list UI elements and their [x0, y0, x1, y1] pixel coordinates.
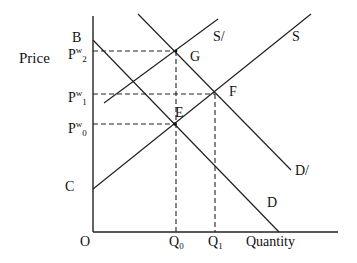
pw1-sub: 1 — [82, 97, 87, 107]
pw1-base: P — [68, 90, 76, 105]
demand-curve-d — [93, 40, 279, 232]
curve-s-label: S — [292, 30, 300, 44]
q1-base: Q — [208, 234, 218, 249]
point-e-dot — [173, 122, 177, 126]
curve-s-prime-label: S/ — [213, 30, 225, 44]
y-axis-label: Price — [19, 51, 50, 65]
price-pw1-label: Pw1 — [68, 91, 87, 106]
point-f-label: F — [229, 85, 237, 99]
supply-curve-s — [93, 14, 311, 189]
x-axis-label: Quantity — [246, 235, 295, 249]
price-pw2-label: Pw2 — [68, 48, 87, 63]
curve-d-prime-label: D/ — [295, 164, 309, 178]
quantity-q1-label: Q1 — [208, 235, 223, 250]
q0-sub: 0 — [179, 241, 184, 251]
q1-sub: 1 — [218, 241, 223, 251]
origin-label: O — [80, 235, 90, 249]
pw2-sub: 2 — [82, 54, 87, 64]
quantity-q0-label: Q0 — [169, 235, 184, 250]
intercept-c-label: C — [65, 180, 74, 194]
pw0-sub: 0 — [82, 128, 87, 138]
point-g-dot — [175, 50, 178, 53]
intercept-b-label: B — [72, 31, 81, 45]
diagram-canvas — [0, 0, 357, 263]
curve-d-label: D — [267, 196, 277, 210]
point-e-label: E — [175, 106, 184, 120]
pw2-base: P — [68, 47, 76, 62]
pw0-base: P — [68, 121, 76, 136]
point-g-label: G — [190, 50, 200, 64]
supply-curve-s-prime — [104, 19, 218, 103]
q0-base: Q — [169, 234, 179, 249]
price-pw0-label: Pw0 — [68, 122, 87, 137]
